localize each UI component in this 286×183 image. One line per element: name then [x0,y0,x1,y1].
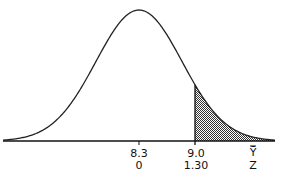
mean-z-label: 0 [136,160,143,172]
shaded-tail-region [195,85,275,141]
z-axis-label: Z [249,160,257,172]
y-bar-label: Ȳ [250,147,257,159]
normal-curve [3,10,275,140]
cutoff-z-label: 1.30 [184,160,209,172]
